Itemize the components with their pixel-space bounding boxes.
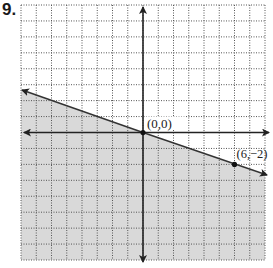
graph: (0,0)(6,−2)	[0, 0, 273, 268]
point-label: (0,0)	[147, 116, 172, 131]
point-marker	[232, 162, 237, 167]
point-marker	[140, 130, 145, 135]
point-label: (6,−2)	[237, 147, 268, 161]
